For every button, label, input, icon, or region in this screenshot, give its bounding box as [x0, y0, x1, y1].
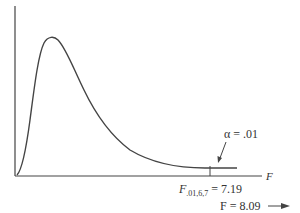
observed-f-arrowhead: [281, 203, 290, 209]
x-axis-label: F: [265, 170, 273, 182]
alpha-pointer-arrow: [220, 142, 226, 158]
alpha-arrowhead: [218, 156, 223, 163]
f-distribution-diagram: F α = .01 F.01,6,7 = 7.19 F = 8.09: [0, 0, 300, 213]
density-curve: [17, 37, 237, 175]
critical-value-label: F.01,6,7 = 7.19: [178, 182, 242, 198]
alpha-label: α = .01: [224, 127, 258, 141]
observed-f-label: F = 8.09: [220, 199, 260, 213]
